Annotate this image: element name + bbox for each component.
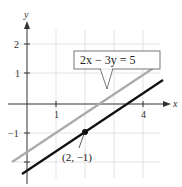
y-axis-label: y <box>23 9 29 20</box>
x-axis-arrow-icon <box>163 101 171 107</box>
point-label: (2, −1) <box>62 151 92 164</box>
tick-label-x4: 4 <box>141 109 146 120</box>
tick-label-y2: 2 <box>14 39 19 50</box>
black-parallel-line <box>22 80 163 174</box>
coordinate-plane: 1 4 2 1 −1 x y (2, −1) 2x − 3y = 5 <box>0 0 182 187</box>
point-2-minus1 <box>82 129 88 135</box>
x-axis-label: x <box>172 98 178 109</box>
equation-callout: 2x − 3y = 5 <box>74 51 160 89</box>
tick-label-x1: 1 <box>54 109 59 120</box>
y-axis-arrow-icon <box>24 21 30 29</box>
tick-label-y1: 1 <box>15 68 20 79</box>
tick-label-ym1: −1 <box>8 128 19 139</box>
equation-label: 2x − 3y = 5 <box>80 53 136 67</box>
